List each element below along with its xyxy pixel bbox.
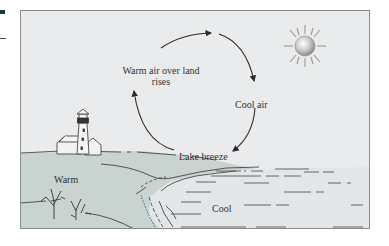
label-cool: Cool [212, 203, 231, 214]
diagram-frame: Warm air over land rises Cool air Lake b… [20, 10, 370, 229]
label-warm-air-rises: Warm air over land rises [99, 65, 223, 87]
sun-icon [284, 25, 326, 67]
label-warm-air-line2: rises [152, 76, 170, 87]
label-warm-air-line1: Warm air over land [122, 65, 199, 76]
circulation-arrows [134, 33, 255, 151]
label-warm: Warm [54, 174, 78, 185]
lighthouse-icon [77, 109, 89, 154]
scene-illustration [21, 11, 370, 229]
label-lake-breeze: Lake breeze [179, 151, 228, 162]
margin-rule [0, 38, 6, 39]
corner-mark [0, 10, 5, 14]
label-cool-air: Cool air [235, 99, 268, 110]
